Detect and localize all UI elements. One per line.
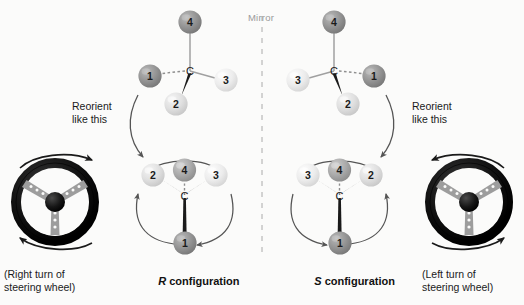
priority-arrow-3-to-1 [291, 194, 327, 245]
center-atom-label: C [330, 65, 338, 77]
reorient-label-right: Reorient like this [412, 100, 452, 126]
reorient-label-left: Reorient like this [72, 100, 112, 126]
reorient-arrow-right [381, 95, 394, 157]
atom-label-3: 3 [213, 169, 219, 181]
atom-label-4: 4 [182, 164, 188, 176]
atom-label-3: 3 [223, 74, 229, 86]
atom-label-2: 2 [150, 169, 156, 181]
center-atom-label: C [336, 190, 344, 202]
atom-label-3: 3 [305, 169, 311, 181]
r-config-word: configuration [166, 275, 239, 287]
wheel-hub [45, 192, 65, 212]
bond-c-to-1-wedge [338, 198, 342, 233]
atom-label-3: 3 [295, 74, 301, 86]
mirror-label: Mirror [248, 12, 274, 24]
priority-arrow-3-to-1 [197, 194, 233, 245]
atom-label-2: 2 [173, 98, 179, 110]
center-atom-label: C [181, 190, 189, 202]
s-config-word: configuration [322, 275, 395, 287]
figure-canvas: 4 1 3 2 C 4 3 1 2 C 2 4 3 1 C 3 4 2 1 C … [0, 0, 524, 305]
atom-label-2: 2 [345, 98, 351, 110]
priority-arrow-1-to-2 [350, 194, 388, 244]
right-wheel-caption: (Left turn of steering wheel) [422, 268, 493, 294]
bond-c-to-1-wedge [183, 198, 187, 233]
steering-wheel-left [16, 155, 94, 250]
diagram-svg: 4 1 3 2 C 4 3 1 2 C 2 4 3 1 C 3 4 2 1 C [0, 0, 524, 305]
s-letter: S [314, 275, 321, 287]
atom-label-1: 1 [371, 70, 377, 82]
priority-arrow-1-to-2 [137, 194, 175, 244]
atom-label-1: 1 [182, 237, 188, 249]
atom-label-2: 2 [368, 169, 374, 181]
atom-label-1: 1 [337, 237, 343, 249]
atom-label-4: 4 [331, 16, 337, 28]
atom-label-1: 1 [147, 70, 153, 82]
r-letter: R [158, 275, 166, 287]
center-atom-label: C [186, 65, 194, 77]
wheel-hub [459, 192, 479, 212]
atom-label-4: 4 [187, 16, 193, 28]
left-wheel-caption: (Right turn of steering wheel) [4, 268, 75, 294]
steering-wheel-right [430, 155, 508, 250]
atom-label-4: 4 [337, 164, 343, 176]
r-configuration-label: R configuration [146, 262, 240, 302]
reorient-arrow-left [130, 95, 143, 157]
s-configuration-label: S configuration [302, 262, 395, 302]
